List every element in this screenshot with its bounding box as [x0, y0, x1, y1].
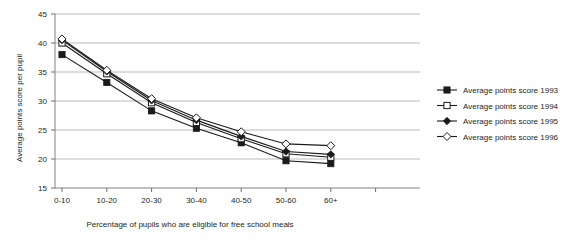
legend-label: Average points score 1993	[463, 86, 559, 95]
y-axis-tick-label: 15	[38, 184, 47, 193]
y-axis-tick-labels: 15202530354045	[38, 10, 47, 193]
data-point-marker	[193, 125, 199, 131]
x-axis-tick-label: 40-50	[231, 196, 252, 205]
series-line	[62, 40, 331, 154]
data-point-marker	[328, 161, 334, 167]
chart-legend: Average points score 1993Average points …	[437, 86, 559, 142]
x-axis-tick-label: 50-60	[276, 196, 297, 205]
y-axis-tick-label: 20	[38, 155, 47, 164]
y-axis-tick-label: 35	[38, 68, 47, 77]
line-chart: 15202530354045 0-1010-2020-3030-4040-505…	[0, 0, 583, 243]
data-point-marker	[444, 87, 450, 93]
x-axis-tick-label: 0-10	[54, 196, 71, 205]
x-axis-tick-label: 30-40	[186, 196, 207, 205]
legend-label: Average points score 1995	[463, 117, 559, 126]
data-point-marker	[443, 117, 450, 124]
data-point-marker	[282, 140, 290, 148]
data-point-marker	[327, 142, 335, 150]
legend-label: Average points score 1996	[463, 133, 559, 142]
data-point-marker	[149, 108, 155, 114]
y-axis-tick-label: 40	[38, 39, 47, 48]
data-point-marker	[59, 52, 65, 58]
legend-label: Average points score 1994	[463, 102, 559, 111]
data-point-marker	[104, 79, 110, 85]
y-axis-tick-label: 30	[38, 97, 47, 106]
y-axis-tick-label: 45	[38, 10, 47, 19]
x-axis-ticks	[62, 188, 376, 192]
data-point-marker	[283, 158, 289, 164]
data-point-marker	[444, 102, 450, 108]
y-axis-tick-label: 25	[38, 126, 47, 135]
chart-figure: 15202530354045 0-1010-2020-3030-4040-505…	[0, 0, 583, 243]
data-point-marker	[237, 128, 245, 136]
x-axis-tick-label: 10-20	[97, 196, 118, 205]
x-axis-tick-label: 20-30	[141, 196, 162, 205]
data-point-marker	[443, 133, 451, 141]
series-line	[62, 43, 331, 157]
y-axis-title: Average points score per pupil	[15, 54, 24, 162]
x-axis-tick-label: 60+	[324, 196, 338, 205]
y-axis-ticks	[51, 14, 55, 188]
x-axis-title: Percentage of pupils who are eligible fo…	[86, 220, 293, 229]
x-axis-tick-labels: 0-1010-2020-3030-4040-5050-6060+	[54, 196, 338, 205]
